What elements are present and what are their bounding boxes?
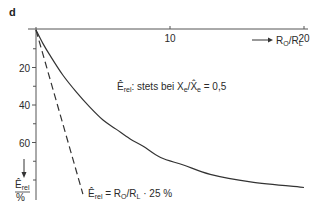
y-axis-label-arrowhead-icon	[22, 172, 27, 178]
y-label-sub: rel	[22, 184, 30, 191]
svg-text:Êrel: Êrel	[15, 178, 30, 191]
annotation-dashed-text2: · 25 %	[140, 188, 172, 199]
series-line-curve	[36, 30, 304, 188]
annotation-curve: Êrel: stets bei Xe/X̂e = 0,5	[117, 79, 227, 93]
y-axis-label: Êrel %	[15, 159, 30, 203]
y-ticks: 204060	[19, 49, 36, 180]
chart: d 1020 204060 RO/RL Êrel % Êrel: stets b…	[0, 0, 323, 214]
x-label-r: R	[276, 35, 283, 46]
x-label-slash: /R	[289, 35, 299, 46]
annotation-dashed-slash: /R	[127, 188, 137, 199]
x-axis-label: RO/RL	[252, 35, 303, 47]
svg-text:RO/RL: RO/RL	[276, 35, 303, 47]
panel-label: d	[9, 6, 16, 18]
y-tick-label: 60	[19, 138, 31, 149]
y-tick-label: 20	[19, 63, 31, 74]
annotation-dashed: Êrel = RO/RL · 25 %	[88, 187, 172, 200]
x-axis-label-arrowhead-icon	[268, 38, 273, 43]
annotation-dashed-text1: = R	[102, 188, 121, 199]
annotation-curve-text1: : stets bei X	[131, 81, 184, 92]
x-tick-label: 10	[164, 33, 176, 44]
y-label-unit: %	[16, 192, 25, 203]
annotation-curve-text2: = 0,5	[201, 81, 227, 92]
series-line-dashed	[36, 30, 83, 194]
axes	[28, 27, 308, 200]
y-tick-label: 40	[19, 100, 31, 111]
x-label-sub2: L	[299, 40, 303, 47]
series-group	[36, 30, 304, 194]
annotation-curve-slash: /X̂	[188, 79, 198, 92]
